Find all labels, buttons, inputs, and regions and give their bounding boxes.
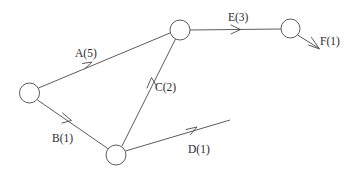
node-start[interactable] bbox=[20, 83, 40, 103]
edge-label-d: D(1) bbox=[188, 143, 210, 156]
node-bottom[interactable] bbox=[106, 145, 126, 165]
node-right[interactable] bbox=[281, 19, 300, 38]
edge-label-e: E(3) bbox=[228, 11, 249, 24]
edge-label-b: B(1) bbox=[52, 132, 73, 145]
arrow-head-d bbox=[186, 127, 197, 135]
network-diagram-canvas: A(5) B(1) C(2) E(3) D(1) F(1) bbox=[0, 0, 363, 169]
edge-label-a: A(5) bbox=[75, 47, 97, 60]
activity-network-diagram: A(5) B(1) C(2) E(3) D(1) F(1) bbox=[0, 0, 363, 169]
edge-label-c: C(2) bbox=[155, 81, 176, 94]
edge-line-f bbox=[298, 35, 319, 48]
node-top[interactable] bbox=[170, 20, 190, 40]
edge-line-d bbox=[126, 120, 231, 151]
edge-line-e bbox=[190, 29, 281, 30]
edge-label-f: F(1) bbox=[320, 35, 340, 48]
